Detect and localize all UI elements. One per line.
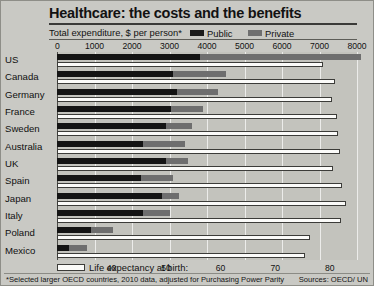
chart-row — [57, 173, 357, 190]
chart-row — [57, 104, 357, 121]
bar-private — [162, 193, 179, 199]
chart-row — [57, 87, 357, 104]
bar-life-expectancy — [57, 149, 340, 154]
chart-row — [57, 156, 357, 173]
bar-public — [57, 193, 162, 199]
category-label-japan: Japan — [5, 193, 55, 204]
chart-row — [57, 52, 357, 69]
legend-swatch-public-icon — [190, 30, 204, 36]
top-axis: 010002000300040005000600070008000 — [49, 40, 357, 52]
category-label-germany: Germany — [5, 89, 55, 100]
bar-private — [166, 123, 192, 129]
bar-life-expectancy — [57, 218, 341, 223]
bar-public — [57, 89, 177, 95]
category-label-italy: Italy — [5, 210, 55, 221]
bar-public — [57, 141, 143, 147]
category-label-uk: UK — [5, 158, 55, 169]
bar-private — [91, 227, 114, 233]
bar-life-expectancy — [57, 166, 333, 171]
bar-life-expectancy — [57, 131, 338, 136]
bar-private — [200, 54, 361, 60]
bar-public — [57, 175, 141, 181]
chart-row — [57, 121, 357, 138]
legend-swatch-private-icon — [248, 30, 262, 36]
chart-row — [57, 243, 357, 260]
bar-private — [166, 158, 189, 164]
axis-tick-top: 8000 — [347, 40, 366, 52]
bar-public — [57, 123, 166, 129]
bar-private — [173, 71, 226, 77]
bar-public — [57, 227, 91, 233]
bar-life-expectancy — [57, 253, 305, 258]
bar-life-expectancy — [57, 183, 342, 188]
chart-row — [57, 139, 357, 156]
bar-public — [57, 158, 166, 164]
legend-label-public: Public — [207, 28, 233, 39]
legend-item-public: Public — [190, 26, 233, 39]
gridline — [357, 52, 358, 260]
category-label-spain: Spain — [5, 175, 55, 186]
bar-life-expectancy — [57, 114, 337, 119]
axis-tick-top: 3000 — [160, 40, 179, 52]
bar-life-expectancy — [57, 79, 335, 84]
category-label-canada: Canada — [5, 71, 55, 82]
legend-item-private: Private — [248, 26, 294, 39]
category-label-australia: Australia — [5, 141, 55, 152]
chart-figure: Healthcare: the costs and the benefits T… — [0, 0, 374, 286]
bar-private — [143, 210, 169, 216]
category-label-poland: Poland — [5, 227, 55, 238]
bar-life-expectancy — [57, 62, 323, 67]
sources-note: Sources: OECD/ UN — [299, 274, 368, 286]
bar-life-expectancy — [57, 201, 346, 206]
chart-row — [57, 208, 357, 225]
chart-row — [57, 225, 357, 242]
legend-swatch-life-expectancy-icon — [57, 264, 85, 271]
page-title: Healthcare: the costs and the benefits — [49, 4, 359, 23]
legend-label-private: Private — [265, 28, 294, 39]
axis-tick-top: 0 — [55, 40, 60, 52]
bar-public — [57, 106, 171, 112]
category-label-france: France — [5, 106, 55, 117]
bar-private — [171, 106, 203, 112]
chart-row — [57, 69, 357, 86]
bar-private — [177, 89, 218, 95]
category-label-sweden: Sweden — [5, 123, 55, 134]
bar-public — [57, 210, 143, 216]
bar-life-expectancy — [57, 97, 332, 102]
bar-public — [57, 71, 173, 77]
chart-row — [57, 191, 357, 208]
bar-private — [69, 245, 87, 251]
bar-private — [143, 141, 184, 147]
category-label-us: US — [5, 54, 55, 65]
axis-tick-top: 5000 — [235, 40, 254, 52]
footnote: *Selected larger OECD countries, 2010 da… — [6, 274, 284, 286]
title-divider — [49, 23, 357, 25]
axis-tick-top: 7000 — [310, 40, 329, 52]
bar-public — [57, 245, 69, 251]
category-label-mexico: Mexico — [5, 245, 55, 256]
axis-tick-top: 2000 — [122, 40, 141, 52]
axis-tick-top: 1000 — [85, 40, 104, 52]
bar-life-expectancy — [57, 235, 310, 240]
chart-subtitle: Total expenditure, $ per person* — [49, 26, 182, 39]
bar-public — [57, 54, 200, 60]
plot-area — [57, 52, 357, 260]
bar-private — [141, 175, 173, 181]
axis-tick-top: 6000 — [272, 40, 291, 52]
axis-tick-top: 4000 — [197, 40, 216, 52]
